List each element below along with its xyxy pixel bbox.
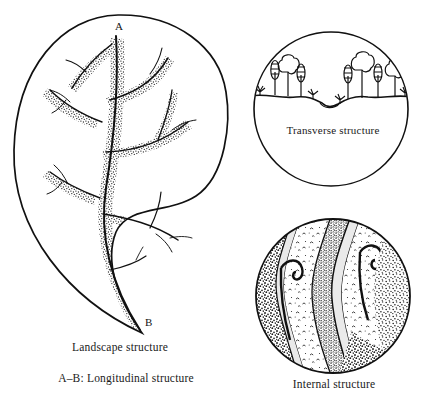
- landscape-panel: [14, 15, 228, 333]
- internal-panel: [250, 213, 420, 383]
- marker-b: B: [145, 316, 152, 328]
- figure-canvas: A B Landscape structure A–B: Longitudina…: [0, 0, 427, 409]
- caption-transverse-structure: Transverse structure: [258, 124, 408, 136]
- caption-longitudinal-structure: A–B: Longitudinal structure: [0, 372, 252, 384]
- marker-a: A: [115, 20, 123, 32]
- transverse-panel: [250, 32, 412, 186]
- transverse-circle: [254, 32, 408, 186]
- caption-internal-structure: Internal structure: [256, 378, 412, 390]
- caption-landscape-structure: Landscape structure: [0, 341, 240, 353]
